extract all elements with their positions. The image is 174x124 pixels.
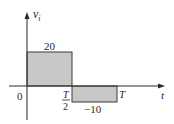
positive-pulse <box>27 52 72 86</box>
waveform-diagram: vi 20 0 T 2 −10 T t <box>0 0 174 124</box>
origin-label: 0 <box>17 90 23 102</box>
x-axis-label: t <box>161 89 165 101</box>
half-period-numerator: T <box>63 89 70 100</box>
x-axis-arrow-icon <box>158 84 165 89</box>
half-period-denominator: 2 <box>63 101 68 112</box>
y-axis-label: vi <box>33 7 41 23</box>
negative-value-label: −10 <box>84 103 102 115</box>
period-label: T <box>119 88 126 100</box>
y-axis-arrow-icon <box>25 12 30 19</box>
negative-pulse <box>72 86 117 102</box>
positive-value-label: 20 <box>44 40 56 52</box>
